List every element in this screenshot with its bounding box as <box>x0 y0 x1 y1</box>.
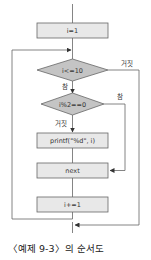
label-loop-true: 참 <box>62 83 68 91</box>
label-loop-false: 거짓 <box>121 59 133 68</box>
next-text: next <box>65 167 80 175</box>
print-text: printf("%d", i) <box>50 137 95 145</box>
label-even-true: 참 <box>117 93 123 101</box>
loop-condition-text: i<=10 <box>62 67 83 75</box>
label-even-false: 거짓 <box>55 119 67 128</box>
init-text: i=1 <box>67 27 78 35</box>
flowchart: i=1 i<=10 i%2==0 printf("%d", i) next i+… <box>0 0 151 260</box>
figure-caption: 〈예제 9-3〉의 순서도 <box>8 243 104 254</box>
even-condition-text: i%2==0 <box>59 101 86 109</box>
increment-text: i+=1 <box>64 201 81 209</box>
